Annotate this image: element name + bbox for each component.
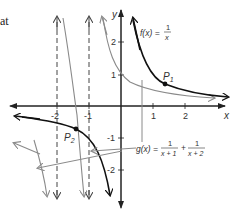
x-axis-label: x <box>223 110 230 121</box>
p1-subscript: 1 <box>170 76 174 83</box>
y-axis-label: y <box>111 9 118 20</box>
svg-text:P1: P1 <box>163 71 174 83</box>
y-tick-neg1: -1 <box>107 133 115 143</box>
x-tick-1: 1 <box>151 111 156 121</box>
svg-text:1: 1 <box>166 23 170 32</box>
point-p2: P2 <box>64 127 78 144</box>
svg-text:f(x) =: f(x) = <box>140 28 160 38</box>
svg-text:1: 1 <box>168 139 172 148</box>
g-callout <box>38 80 142 168</box>
point-p1: P1 <box>163 71 174 86</box>
svg-text:g(x) =: g(x) = <box>136 144 158 154</box>
svg-text:x: x <box>164 33 169 42</box>
svg-text:1: 1 <box>195 139 199 148</box>
svg-text:+: + <box>181 143 186 153</box>
p2-subscript: 2 <box>70 137 75 144</box>
svg-text:P2: P2 <box>64 132 75 144</box>
graph-canvas: -2 -1 1 2 2 1 -1 -2 x y <box>0 0 244 210</box>
x-tick-2: 2 <box>183 111 188 121</box>
x-tick-neg1: -1 <box>84 111 92 121</box>
svg-text:x + 2: x + 2 <box>187 150 203 157</box>
g-label: g(x) = 1 x + 1 + 1 x + 2 <box>136 139 205 157</box>
y-tick-neg2: -2 <box>107 165 115 175</box>
svg-text:x + 1: x + 1 <box>160 150 176 157</box>
x-tick-neg2: -2 <box>51 111 59 121</box>
y-tick-1: 1 <box>111 70 116 80</box>
y-tick-2: 2 <box>111 37 116 47</box>
f-label: f(x) = 1 x <box>140 23 171 42</box>
